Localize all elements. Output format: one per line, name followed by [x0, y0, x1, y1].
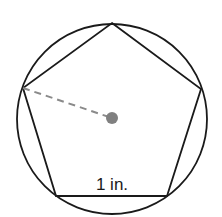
side-length-label: 1 in.	[96, 175, 128, 194]
regular-pentagon	[23, 23, 201, 196]
center-point	[106, 112, 118, 124]
pentagon-circle-diagram: 1 in.	[0, 0, 222, 217]
radius-dashed-line	[23, 88, 112, 118]
